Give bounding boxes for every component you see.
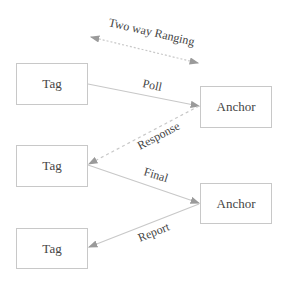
anchor-node-2: Anchor (200, 183, 272, 224)
poll-label: Poll (141, 76, 163, 94)
tag-node-2-label: Tag (42, 158, 61, 174)
tag-node-3: Tag (16, 228, 88, 269)
two-way-ranging-label: Two way Ranging (107, 15, 196, 48)
tag-node-1: Tag (16, 63, 88, 105)
anchor-node-1-label: Anchor (217, 99, 256, 115)
final-label: Final (142, 164, 170, 185)
tag-node-1-label: Tag (42, 76, 61, 92)
anchor-node-1: Anchor (200, 86, 272, 128)
response-label: Response (135, 119, 182, 153)
tag-node-2: Tag (16, 145, 88, 187)
report-label: Report (136, 219, 172, 244)
tag-node-3-label: Tag (42, 241, 61, 257)
anchor-node-2-label: Anchor (217, 196, 256, 212)
